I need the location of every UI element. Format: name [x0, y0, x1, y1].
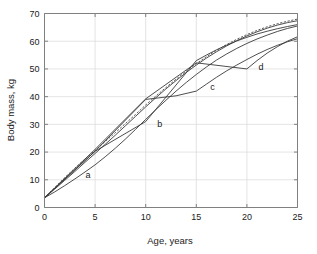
chart-figure: 0510152025010203040506070 abcd Age, year…	[0, 0, 317, 254]
y-tick-label: 30	[29, 120, 39, 130]
tick-labels: 0510152025010203040506070	[29, 9, 302, 222]
x-tick-label: 15	[191, 212, 201, 222]
y-tick-label: 40	[29, 92, 39, 102]
tick-marks	[45, 14, 298, 208]
y-tick-label: 70	[29, 9, 39, 19]
x-tick-label: 20	[242, 212, 252, 222]
gridlines	[45, 14, 298, 208]
y-axis-title: Body mass, kg	[5, 79, 16, 141]
x-tick-label: 25	[292, 212, 302, 222]
curve-reference	[45, 19, 298, 198]
curve-label-d: d	[259, 62, 264, 72]
curve-label-b: b	[157, 119, 162, 129]
curve-a-upper	[45, 21, 298, 198]
data-curves	[45, 19, 298, 198]
x-tick-label: 5	[93, 212, 98, 222]
body-mass-vs-age-chart: 0510152025010203040506070 abcd Age, year…	[0, 0, 317, 254]
y-tick-label: 50	[29, 64, 39, 74]
y-tick-label: 0	[34, 203, 39, 213]
curve-label-c: c	[210, 82, 215, 92]
curve-a	[45, 26, 298, 198]
y-tick-label: 60	[29, 37, 39, 47]
y-tick-label: 10	[29, 175, 39, 185]
curve-b	[45, 25, 298, 198]
axes-frame	[45, 14, 298, 208]
curve-label-a: a	[86, 170, 91, 180]
x-tick-label: 0	[42, 212, 47, 222]
y-tick-label: 20	[29, 147, 39, 157]
x-tick-label: 10	[141, 212, 151, 222]
x-axis-title: Age, years	[147, 235, 193, 246]
